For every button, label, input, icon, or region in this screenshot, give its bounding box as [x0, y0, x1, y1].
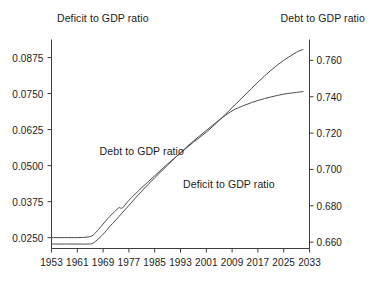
- left-tick-label: 0.0875: [0, 52, 44, 63]
- x-tick-label: 1977: [118, 257, 141, 268]
- right-tick-label: 0.700: [317, 164, 343, 175]
- x-tick-label: 1985: [143, 257, 166, 268]
- left-tick-label: 0.0625: [0, 124, 44, 135]
- left-tick-label: 0.0750: [0, 88, 44, 99]
- left-tick-label: 0.0375: [0, 196, 44, 207]
- x-tick-label: 2009: [221, 257, 244, 268]
- series-line-deficit-to-gdp-ratio: [52, 92, 304, 245]
- right-tick-label: 0.760: [317, 55, 343, 66]
- x-tick-label: 1993: [169, 257, 192, 268]
- right-tick-label: 0.680: [317, 200, 343, 211]
- x-tick-label: 1953: [40, 257, 63, 268]
- x-tick-label: 2033: [298, 257, 321, 268]
- x-tick-label: 1961: [66, 257, 89, 268]
- series-annotation: Deficit to GDP ratio: [183, 178, 275, 190]
- x-tick-label: 2017: [247, 257, 270, 268]
- x-tick-label: 2001: [195, 257, 218, 268]
- right-tick-label: 0.720: [317, 128, 343, 139]
- right-tick-label: 0.660: [317, 237, 343, 248]
- left-tick-label: 0.0500: [0, 160, 44, 171]
- right-tick-label: 0.740: [317, 91, 343, 102]
- left-tick-label: 0.0250: [0, 232, 44, 243]
- series-line-debt-to-gdp-ratio: [52, 50, 304, 238]
- chart-figure: Deficit to GDP ratio Debt to GDP ratio 0…: [0, 0, 373, 288]
- series-annotation: Debt to GDP ratio: [100, 145, 184, 157]
- x-tick-label: 2025: [272, 257, 295, 268]
- x-tick-label: 1969: [92, 257, 115, 268]
